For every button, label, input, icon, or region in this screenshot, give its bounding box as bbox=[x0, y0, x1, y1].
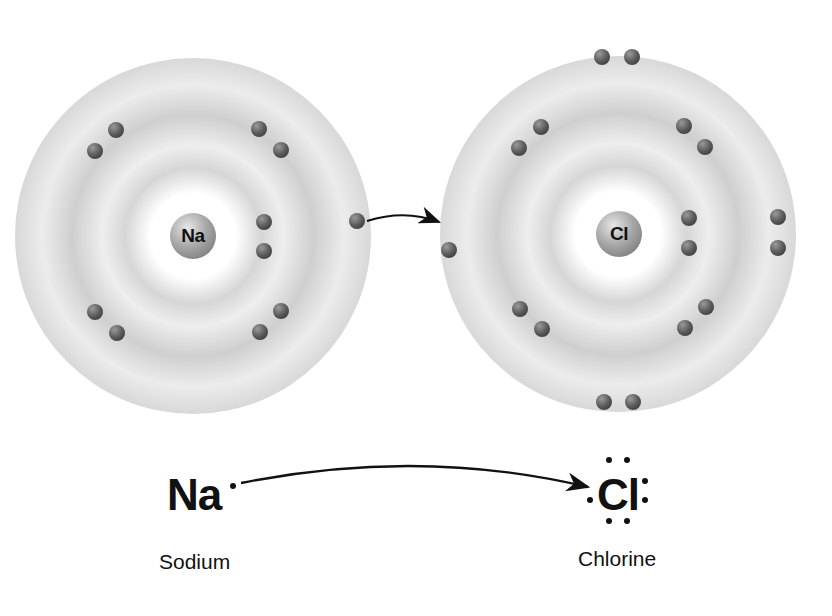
chlorine-symbol: Cl bbox=[597, 470, 639, 520]
electron-transfer-arrow bbox=[367, 215, 439, 222]
sodium-symbol: Na bbox=[167, 470, 221, 520]
lewis-dot bbox=[587, 497, 593, 503]
lewis-dot bbox=[642, 478, 648, 484]
lewis-dot bbox=[642, 497, 648, 503]
lewis-transfer-arrow bbox=[241, 466, 588, 487]
sodium-label: Sodium bbox=[159, 550, 230, 574]
lewis-dot bbox=[624, 457, 630, 463]
lewis-dot bbox=[624, 518, 630, 524]
lewis-dot bbox=[606, 518, 612, 524]
transfer-arrows bbox=[0, 0, 832, 616]
sodium-valence-dot bbox=[230, 483, 236, 489]
chlorine-label: Chlorine bbox=[578, 547, 656, 571]
lewis-dot bbox=[606, 457, 612, 463]
